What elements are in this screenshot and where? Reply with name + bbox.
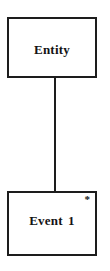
event-node[interactable]: * Event 1 — [7, 191, 97, 256]
entity-event-connector-line[interactable] — [54, 78, 56, 191]
entity-node-label: Entity — [34, 37, 70, 58]
diagram-canvas: Entity * Event 1 — [0, 0, 110, 271]
entity-node[interactable]: Entity — [7, 17, 97, 78]
cardinality-asterisk-marker: * — [85, 194, 91, 205]
event-node-label: Event 1 — [29, 213, 75, 235]
